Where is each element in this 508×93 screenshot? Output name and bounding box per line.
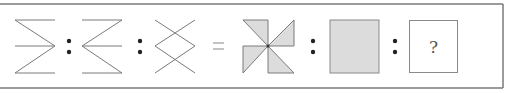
colon-separator-2	[138, 39, 142, 54]
colon-separator-1	[67, 39, 71, 54]
answer-box[interactable]: ?	[409, 20, 458, 73]
figure-5-shaded-square	[330, 20, 379, 73]
colon-separator-4	[393, 39, 397, 54]
figure-4-pinwheel	[243, 20, 294, 73]
colon-separator-3	[311, 39, 315, 54]
figure-2-zigzag-left	[82, 20, 122, 73]
figure-1-zigzag-right	[15, 20, 55, 73]
figure-3-diamond-cross	[155, 20, 195, 73]
equals-sign	[213, 43, 224, 49]
question-mark: ?	[429, 37, 438, 57]
